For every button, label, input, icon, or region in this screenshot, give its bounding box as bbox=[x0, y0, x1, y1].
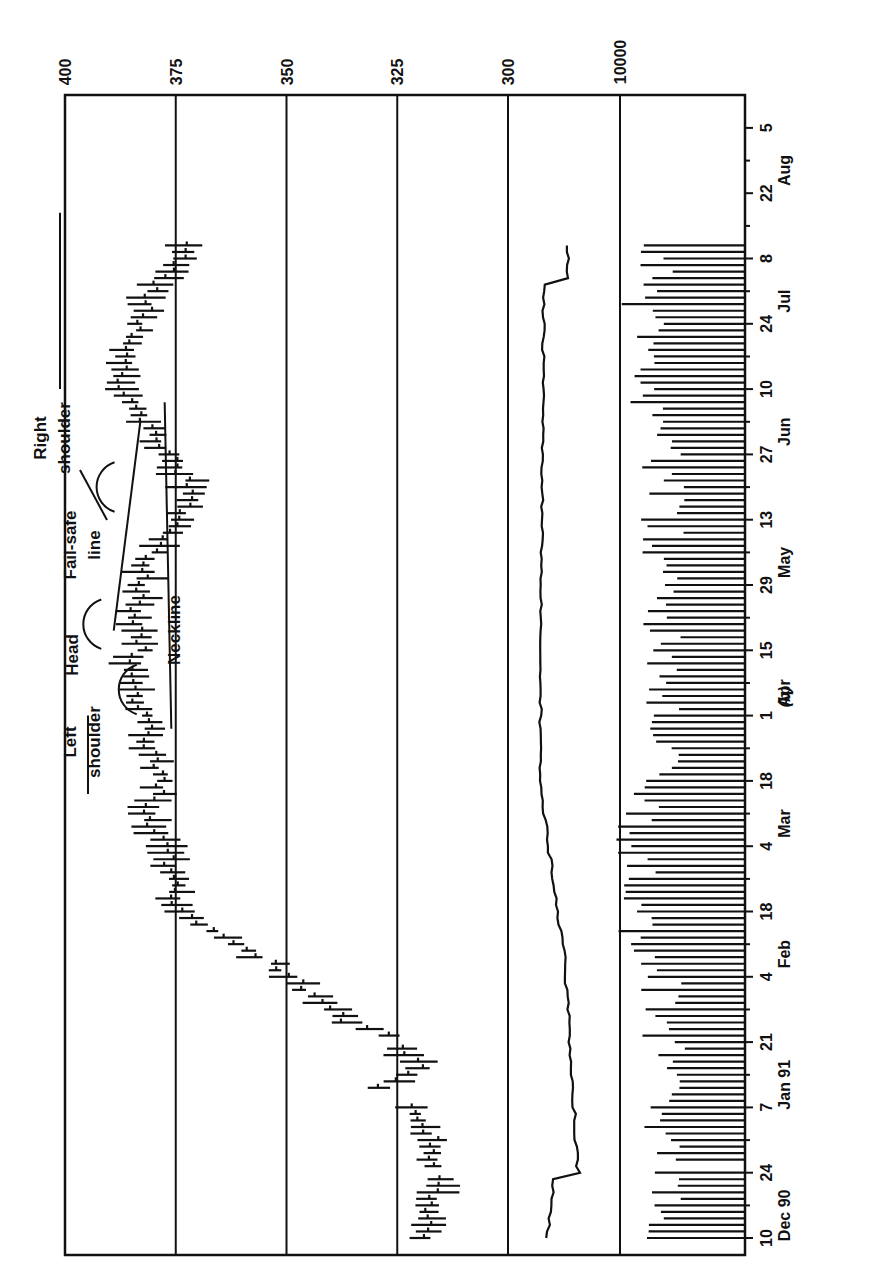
time-tick-label: 10 bbox=[758, 1229, 775, 1247]
price-volume-chart: 40037535032530010000 1024721418418115291… bbox=[0, 0, 873, 1288]
time-tick-label: 10 bbox=[758, 380, 775, 398]
month-label: Jan 91 bbox=[776, 1060, 793, 1110]
label-neckline: Neckline bbox=[165, 595, 184, 665]
price-tick-label: 325 bbox=[389, 59, 406, 86]
time-tick-label: 15 bbox=[758, 641, 775, 659]
month-label: Jun bbox=[776, 418, 793, 446]
label-right-shoulder: shoulder bbox=[55, 402, 74, 474]
time-tick-label: 18 bbox=[758, 772, 775, 790]
volume-tick-label: 10000 bbox=[612, 40, 629, 85]
month-label: Aug bbox=[776, 155, 793, 186]
price-axis-labels: 40037535032530010000 bbox=[57, 40, 629, 86]
time-tick-label: 5 bbox=[758, 123, 775, 132]
month-label: Jul bbox=[776, 290, 793, 313]
rotated-chart-stage: 40037535032530010000 1024721418418115291… bbox=[0, 0, 873, 1288]
figure-caption: (b) bbox=[776, 687, 793, 707]
time-tick-label: 18 bbox=[758, 903, 775, 921]
time-tick-label: 22 bbox=[758, 184, 775, 202]
head-arc bbox=[83, 599, 101, 648]
time-tick-label: 8 bbox=[758, 254, 775, 263]
price-tick-label: 300 bbox=[500, 59, 517, 86]
pattern-annotations bbox=[60, 213, 171, 794]
time-axis-labels: 102472141841811529132710248225 bbox=[758, 123, 775, 1247]
label-right-shoulder: Right bbox=[31, 416, 50, 460]
time-tick-label: 24 bbox=[758, 1164, 775, 1182]
month-label: Dec 90 bbox=[776, 1189, 793, 1241]
label-head: Head bbox=[63, 634, 82, 676]
time-tick-label: 24 bbox=[758, 315, 775, 333]
label-left-shoulder: Left bbox=[61, 726, 80, 758]
label-failsafe-line: line bbox=[85, 530, 104, 559]
time-tick-label: 29 bbox=[758, 576, 775, 594]
time-tick-label: 27 bbox=[758, 445, 775, 463]
label-left-shoulder: shoulder bbox=[85, 706, 104, 778]
month-label: May bbox=[776, 547, 793, 578]
failsafe-line bbox=[114, 422, 141, 631]
price-tick-label: 350 bbox=[279, 59, 296, 86]
volume-bars bbox=[616, 245, 745, 1238]
time-tick-label: 7 bbox=[758, 1103, 775, 1112]
month-label: Feb bbox=[776, 940, 793, 969]
right-shoulder-pointer bbox=[80, 470, 107, 520]
time-tick-label: 1 bbox=[758, 711, 775, 720]
month-label: Mar bbox=[776, 809, 793, 837]
time-tick-label: 21 bbox=[758, 1033, 775, 1051]
indicator-line bbox=[539, 245, 580, 1238]
time-tick-label: 13 bbox=[758, 511, 775, 529]
price-tick-label: 375 bbox=[168, 59, 185, 86]
price-tick-label: 400 bbox=[57, 59, 74, 86]
time-tick-label: 4 bbox=[758, 842, 775, 851]
price-bars bbox=[105, 241, 460, 1238]
label-failsafe-line: Fail-safe bbox=[61, 511, 80, 580]
time-tick-label: 4 bbox=[758, 972, 775, 981]
